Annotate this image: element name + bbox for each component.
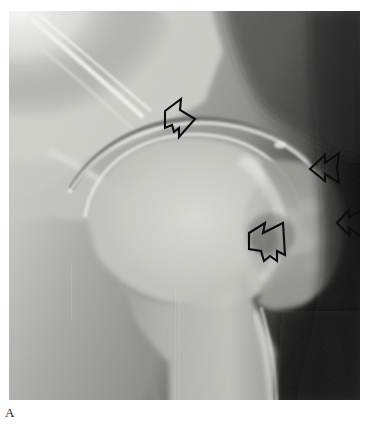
film-grain (9, 11, 360, 400)
figure-panel-label: A (5, 406, 15, 420)
figure-container: A (0, 0, 376, 425)
hip-radiograph-image (9, 11, 360, 400)
radiograph-canvas (9, 11, 360, 400)
